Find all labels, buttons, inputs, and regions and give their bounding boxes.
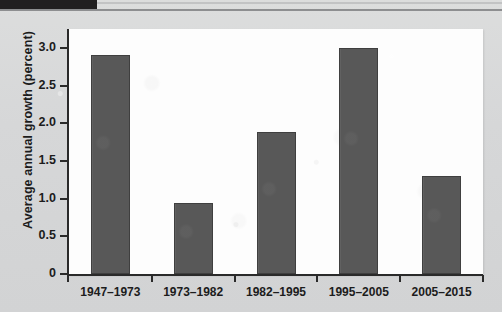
- y-axis-tick-label: 3.0: [10, 40, 56, 54]
- x-axis-tick-label: 1995–2005: [317, 285, 400, 299]
- y-axis-tick-label: 0: [10, 266, 56, 280]
- bar: [339, 48, 378, 274]
- bar: [174, 203, 213, 274]
- y-axis-tick-label: 1.5: [10, 153, 56, 167]
- y-axis-line: [67, 29, 69, 275]
- y-axis-tick: [60, 198, 68, 200]
- x-axis-tick: [482, 275, 484, 282]
- header-rule-light: [97, 2, 502, 4]
- y-axis-tick-label: 2.5: [10, 78, 56, 92]
- bar-chart-figure: Average annual growth (percent) 00.51.01…: [0, 11, 502, 312]
- y-axis-tick-label: 0.5: [10, 228, 56, 242]
- y-axis-tick: [60, 122, 68, 124]
- x-axis-tick: [234, 275, 236, 282]
- bar: [91, 55, 130, 274]
- y-axis-tick-label: 1.0: [10, 191, 56, 205]
- x-axis-tick-label: 1973–1982: [152, 285, 235, 299]
- chapter-marker-band: [0, 0, 97, 9]
- x-axis-tick: [399, 275, 401, 282]
- scanned-page-background: Average annual growth (percent) 00.51.01…: [0, 0, 502, 312]
- x-axis-tick-label: 1982–1995: [235, 285, 318, 299]
- x-axis-tick: [67, 275, 69, 282]
- y-axis-tick: [60, 160, 68, 162]
- y-axis-tick: [60, 235, 68, 237]
- y-axis-tick: [60, 47, 68, 49]
- bar: [422, 176, 461, 274]
- x-axis-line: [67, 274, 483, 276]
- x-axis-tick: [151, 275, 153, 282]
- y-axis-tick: [60, 85, 68, 87]
- x-axis-tick-label: 1947–1973: [69, 285, 152, 299]
- x-axis-tick-label: 2005–2015: [400, 285, 483, 299]
- bar: [257, 132, 296, 274]
- x-axis-tick: [316, 275, 318, 282]
- y-axis-tick-label: 2.0: [10, 115, 56, 129]
